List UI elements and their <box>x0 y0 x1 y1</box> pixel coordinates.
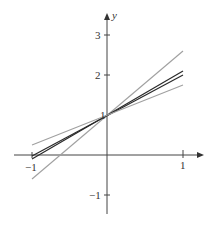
x-tick-label-neg1: −1 <box>25 161 37 173</box>
y-axis-arrow-icon <box>104 13 110 20</box>
chart: y 3 2 1 −1 −1 1 <box>0 0 216 225</box>
y-tick-label-3: 3 <box>95 29 101 41</box>
x-tick-label-1: 1 <box>180 159 186 171</box>
x-axis-arrow-icon <box>197 152 204 158</box>
y-tick-label-neg1: −1 <box>89 189 101 201</box>
y-tick-label-1: 1 <box>100 109 106 121</box>
y-axis-label: y <box>111 9 117 21</box>
y-tick-label-2: 2 <box>95 69 101 81</box>
